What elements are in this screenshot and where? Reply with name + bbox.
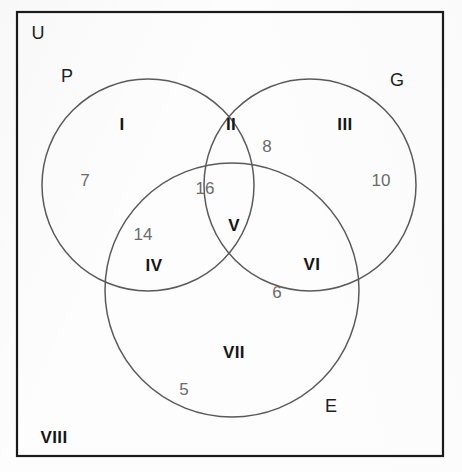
set-label-g: G <box>390 71 404 89</box>
region-label-iv: IV <box>146 257 163 274</box>
venn-diagram-figure: U P G E I II III IV V VI VII VIII 7 8 10… <box>0 0 462 472</box>
region-label-v: V <box>228 217 240 234</box>
region-label-i: I <box>119 116 124 133</box>
set-label-e: E <box>325 397 337 415</box>
region-label-viii: VIII <box>40 429 67 446</box>
region-count-vii: 5 <box>179 381 188 398</box>
region-label-iii: III <box>337 116 352 133</box>
region-label-ii: II <box>226 116 236 133</box>
region-count-iv: 14 <box>134 226 153 243</box>
region-label-vi: VI <box>304 256 321 273</box>
set-label-p: P <box>61 67 73 85</box>
region-count-v: 16 <box>196 180 215 197</box>
region-count-ii: 8 <box>262 138 271 155</box>
region-count-i: 7 <box>80 172 89 189</box>
universal-set-label: U <box>32 24 45 42</box>
region-count-iii: 10 <box>372 172 391 189</box>
region-label-vii: VII <box>223 344 245 361</box>
region-count-vi: 6 <box>272 284 281 301</box>
